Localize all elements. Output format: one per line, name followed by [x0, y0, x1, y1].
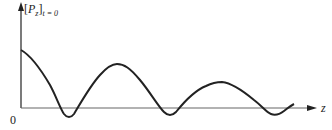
x-axis-label: z: [320, 101, 326, 115]
curve: [21, 50, 294, 117]
polarization-diagram: [Pz]t = 0 0 z: [0, 0, 332, 130]
y-axis-label: [Pz]t = 0: [24, 2, 58, 18]
x-axis-arrow-icon: [307, 105, 317, 111]
origin-label: 0: [10, 113, 16, 127]
